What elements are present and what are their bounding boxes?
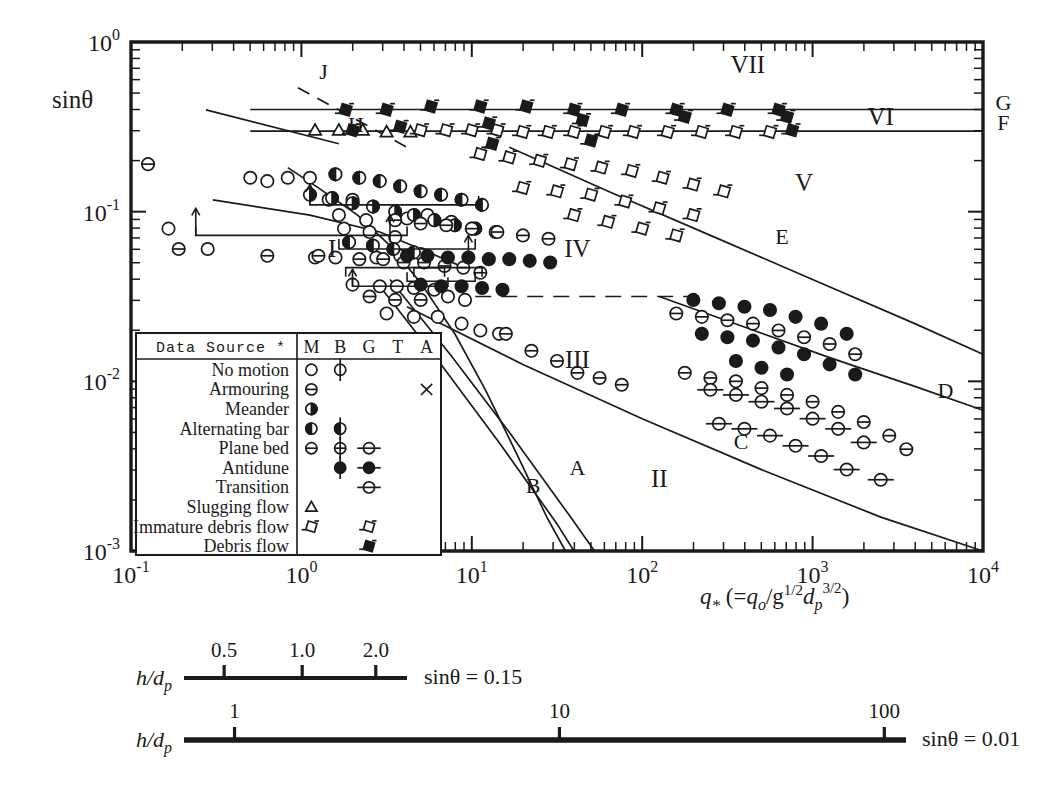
figure-root [0, 0, 1053, 788]
